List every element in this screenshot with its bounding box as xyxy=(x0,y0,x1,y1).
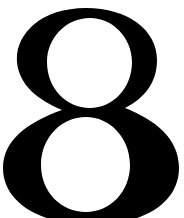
eight-shape xyxy=(0,0,184,218)
digit-eight-glyph: 8 xyxy=(0,0,184,218)
